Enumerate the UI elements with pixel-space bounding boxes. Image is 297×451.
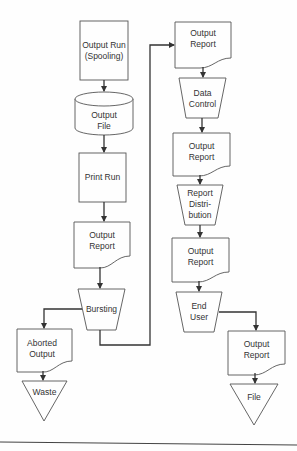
file-label: File (230, 392, 278, 403)
output-file-label: Output File (75, 110, 133, 132)
waste-label: Waste (22, 387, 67, 398)
output-report-1-label: Output Report (74, 230, 130, 252)
output-report-2-label: Output Report (175, 28, 231, 50)
output-run-label: Output Run (Spooling) (80, 40, 128, 62)
print-run-label: Print Run (79, 172, 126, 183)
end-user-label: End User (176, 301, 222, 323)
flowchart-canvas (0, 0, 297, 451)
aborted-output-label: Aborted Output (17, 338, 67, 360)
output-report-3-label: Output Report (173, 141, 230, 163)
bursting-label: Bursting (78, 304, 125, 315)
bottom-rule (0, 442, 297, 445)
output-report-4-label: Output Report (172, 246, 229, 268)
file-triangle (230, 384, 278, 425)
output-report-5-label: Output Report (228, 339, 285, 361)
data-control-label: Data Control (179, 88, 226, 110)
report-distribution-label: Report Distri- bution (177, 188, 223, 221)
